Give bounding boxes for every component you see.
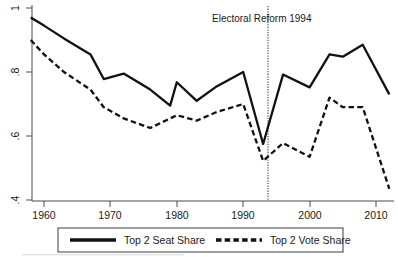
electoral-reform-annotation-label: Electoral Reform 1994	[212, 13, 312, 24]
x-tick-label-1980: 1980	[165, 209, 189, 221]
legend-label-vote-share: Top 2 Vote Share	[270, 234, 351, 246]
cropped-caption-strip	[22, 254, 184, 255]
y-tick-label-04: .4	[9, 195, 21, 204]
x-tick-label-1970: 1970	[98, 209, 122, 221]
line-chart-svg: Electoral Reform 1994 1 .8 .6 .4 1960 19…	[0, 0, 398, 257]
chart-background	[0, 0, 398, 257]
legend-label-seat-share: Top 2 Seat Share	[124, 234, 205, 246]
x-tick-label-2000: 2000	[298, 209, 322, 221]
x-tick-label-1990: 1990	[231, 209, 255, 221]
y-tick-label-06: .6	[9, 131, 21, 140]
y-tick-label-08: .8	[9, 67, 21, 76]
x-tick-label-1960: 1960	[32, 209, 56, 221]
chart-figure: Electoral Reform 1994 1 .8 .6 .4 1960 19…	[0, 0, 398, 257]
x-tick-label-2010: 2010	[364, 209, 388, 221]
y-tick-label-1: 1	[9, 5, 21, 11]
legend: Top 2 Seat Share Top 2 Vote Share	[58, 228, 351, 252]
